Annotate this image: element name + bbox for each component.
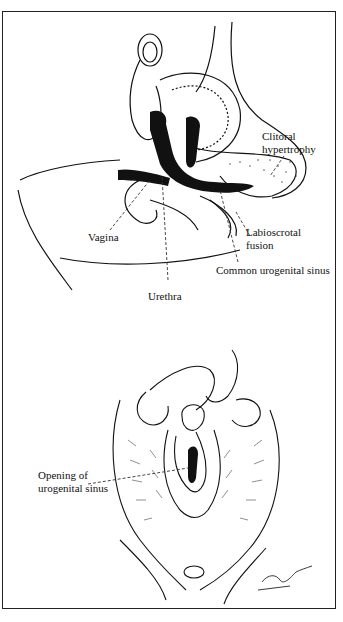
perineum-drawing <box>113 350 279 604</box>
label-line: Labioscrotal <box>246 226 301 239</box>
label-line: Clitoral <box>262 130 316 143</box>
urogenital-tract-fill <box>118 111 254 193</box>
label-labioscrotal-fusion: Labioscrotal fusion <box>246 226 301 252</box>
label-vagina: Vagina <box>88 231 119 244</box>
clitoral-stipple <box>229 159 296 182</box>
artist-signature <box>258 566 312 590</box>
label-line: fusion <box>246 239 301 252</box>
label-line: hypertrophy <box>262 143 316 156</box>
label-line: Opening of <box>38 469 108 482</box>
label-common-urogenital-sinus: Common urogenital sinus <box>216 264 330 277</box>
label-opening-urogenital-sinus: Opening of urogenital sinus <box>38 469 108 495</box>
anatomical-illustration <box>0 0 343 622</box>
label-clitoral-hypertrophy: Clitoral hypertrophy <box>262 130 316 156</box>
label-urethra: Urethra <box>148 290 182 303</box>
label-line: urogenital sinus <box>38 482 108 495</box>
urogenital-opening-fill <box>188 447 198 484</box>
